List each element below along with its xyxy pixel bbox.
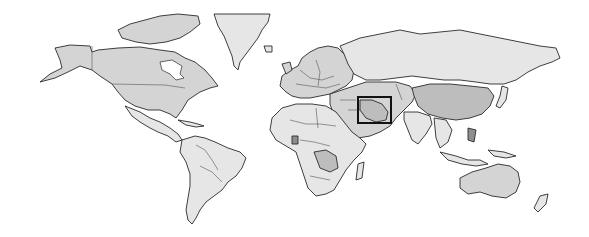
world-map [0, 0, 589, 237]
greenland [214, 14, 270, 70]
japan [496, 86, 508, 108]
southeast-asia [434, 118, 516, 166]
south-america [180, 136, 246, 224]
highlight-box [357, 96, 392, 124]
north-america [40, 14, 218, 142]
india [404, 112, 432, 144]
australia [460, 164, 520, 198]
new-zealand [534, 194, 548, 212]
russia [340, 30, 560, 84]
